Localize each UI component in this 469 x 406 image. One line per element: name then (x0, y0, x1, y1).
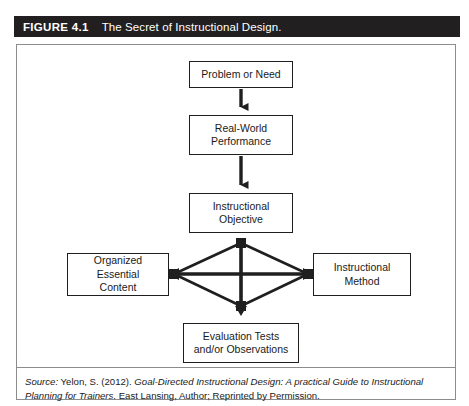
figure-header-bar: FIGURE 4.1 The Secret of Instructional D… (14, 16, 460, 37)
node-real-world-performance-label: Real-World Performance (211, 122, 271, 149)
figure-title: The Secret of Instructional Design. (102, 21, 282, 33)
node-evaluation-tests-label: Evaluation Tests and/or Observations (194, 330, 289, 357)
node-instructional-objective[interactable]: Instructional Objective (189, 193, 293, 233)
node-problem-or-need[interactable]: Problem or Need (189, 61, 293, 88)
node-instructional-objective-label: Instructional Objective (213, 200, 270, 227)
figure-number: FIGURE 4.1 (23, 21, 89, 33)
node-organized-essential-content-label: Organized Essential Content (72, 254, 164, 295)
source-note: Source: Yelon, S. (2012). Goal-Directed … (25, 375, 445, 402)
source-tail: . East Lansing, Author; Reprinted by Per… (113, 390, 319, 401)
node-real-world-performance[interactable]: Real-World Performance (189, 115, 293, 155)
source-label: Source: (25, 376, 58, 387)
source-author: Yelon, S. (2012). (58, 376, 134, 387)
source-divider (17, 367, 455, 368)
node-instructional-method-label: Instructional Method (318, 261, 406, 288)
node-problem-or-need-label: Problem or Need (201, 68, 280, 82)
instructional-design-diagram: Problem or Need Real-World Performance I… (17, 45, 455, 360)
node-organized-essential-content[interactable]: Organized Essential Content (67, 253, 169, 296)
figure-frame: Problem or Need Real-World Performance I… (16, 44, 456, 400)
node-instructional-method[interactable]: Instructional Method (313, 253, 411, 296)
node-evaluation-tests[interactable]: Evaluation Tests and/or Observations (183, 323, 299, 363)
